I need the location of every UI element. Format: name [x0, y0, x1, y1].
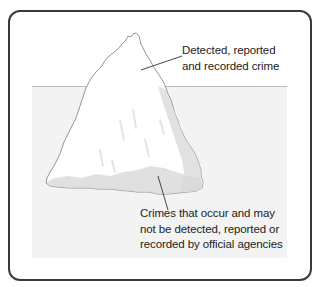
label-line: Crimes that occur and may — [140, 206, 283, 222]
label-line: recorded by official agencies — [140, 237, 283, 253]
label-line: Detected, reported — [182, 43, 279, 59]
label-line: not be detected, reported or — [140, 222, 283, 238]
label-hidden-crime: Crimes that occur and may not be detecte… — [140, 206, 283, 253]
label-line: and recorded crime — [182, 59, 279, 75]
label-detected-crime: Detected, reported and recorded crime — [182, 43, 279, 74]
